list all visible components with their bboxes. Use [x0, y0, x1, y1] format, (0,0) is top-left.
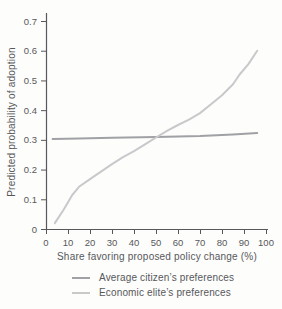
x-tick-label: 20: [85, 237, 96, 248]
x-tick-label: 60: [173, 237, 184, 248]
legend-item-economic-elite: Economic elite’s preferences: [72, 287, 234, 299]
y-tick-label: 0.5: [24, 75, 37, 86]
y-tick-label: 0: [32, 224, 37, 235]
legend-label-citizen: Average citizen’s preferences: [99, 272, 234, 284]
y-tick-label: 0.3: [24, 134, 37, 145]
legend: Average citizen’s preferences Economic e…: [72, 272, 234, 299]
y-tick-label: 0.4: [24, 105, 37, 116]
chart-canvas: 010203040506070809010000.10.20.30.40.50.…: [0, 0, 282, 265]
x-tick-label: 0: [43, 237, 48, 248]
y-tick-label: 0.2: [24, 164, 37, 175]
y-axis-title: Predicted probability of adoption: [6, 22, 20, 222]
x-axis-title: Share favoring proposed policy change (%…: [46, 251, 268, 262]
x-tick-label: 100: [258, 237, 274, 248]
x-tick-label: 30: [107, 237, 118, 248]
x-tick-label: 80: [217, 237, 228, 248]
x-tick-label: 10: [63, 237, 74, 248]
x-tick-label: 90: [239, 237, 250, 248]
legend-swatch-citizen-line: [72, 277, 90, 279]
legend-label-elite: Economic elite’s preferences: [99, 287, 231, 299]
y-tick-label: 0.7: [24, 16, 37, 27]
legend-item-average-citizen: Average citizen’s preferences: [72, 272, 234, 284]
figure: 010203040506070809010000.10.20.30.40.50.…: [0, 0, 282, 309]
legend-swatch-elite-line: [72, 292, 90, 294]
series-line-economic-elite: [55, 51, 257, 223]
x-tick-label: 70: [195, 237, 206, 248]
x-tick-label: 50: [151, 237, 162, 248]
x-tick-label: 40: [129, 237, 140, 248]
y-tick-label: 0.1: [24, 194, 37, 205]
y-tick-label: 0.6: [24, 45, 37, 56]
